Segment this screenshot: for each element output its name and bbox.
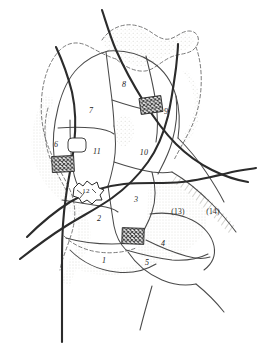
parcel-label-4: 4	[161, 239, 165, 248]
parcel-label-2: 2	[97, 214, 101, 223]
building-outline	[68, 138, 86, 152]
parcel-label-11: 11	[93, 147, 101, 156]
parcel-label-10: 10	[140, 148, 148, 157]
parcel-label-1: 1	[102, 256, 106, 265]
parcel-label-5: 5	[145, 258, 149, 267]
parcel-label-13: (13)	[171, 207, 184, 216]
parcel-label-6: 6	[54, 140, 58, 149]
hatched-block-south	[122, 228, 145, 245]
hatched-block-west	[52, 155, 75, 172]
hatched-block-north	[139, 96, 163, 115]
map-canvas	[0, 0, 262, 348]
parcel-label-7: 7	[89, 106, 93, 115]
parcel-label-3: 3	[134, 195, 138, 204]
parcel-label-9: 9	[164, 107, 168, 116]
map-figure: 1 2 3 4 5 6 7 8 9 10 11 12 (13) (14)	[0, 0, 262, 348]
parcel-label-8: 8	[122, 80, 126, 89]
parcel-label-12: 12	[82, 187, 89, 195]
parcel-label-14: (14)	[206, 207, 219, 216]
